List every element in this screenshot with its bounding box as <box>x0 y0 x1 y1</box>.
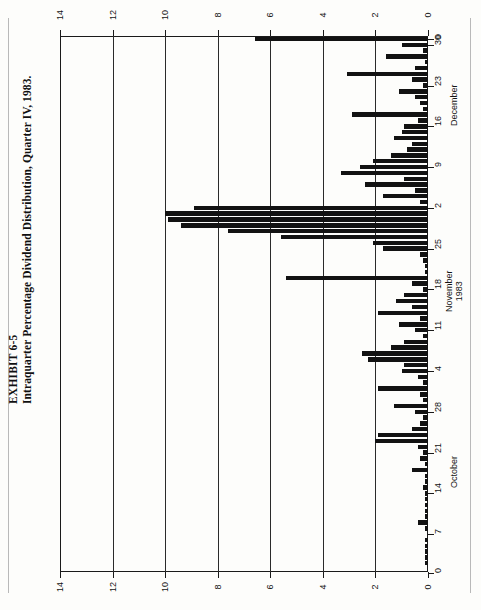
bar <box>373 241 428 245</box>
bar <box>423 258 428 262</box>
bar <box>418 375 429 379</box>
bar <box>362 351 428 355</box>
bar <box>420 316 428 320</box>
bar <box>407 147 428 151</box>
bar <box>425 60 428 64</box>
bar <box>386 54 428 58</box>
value-tick-6 <box>270 572 271 578</box>
bar <box>412 281 428 285</box>
bar <box>404 177 428 181</box>
bar <box>415 66 428 70</box>
bar <box>425 549 428 553</box>
bar <box>420 101 428 105</box>
date-tick-label: 25 <box>433 239 443 249</box>
bar <box>391 345 428 349</box>
bar <box>418 118 429 122</box>
bar <box>255 37 428 41</box>
date-tick-9 <box>428 167 434 168</box>
bar <box>375 439 428 443</box>
bar <box>423 415 428 419</box>
month-label: November1983 <box>444 270 464 312</box>
bar <box>383 194 428 198</box>
bar <box>404 124 428 128</box>
bar <box>394 404 428 408</box>
gridline-6 <box>270 36 271 572</box>
value-tick-label-2: 2 <box>370 576 380 598</box>
bar <box>425 509 428 513</box>
bar <box>423 334 428 338</box>
gridline-12 <box>113 36 114 572</box>
bar <box>415 410 428 414</box>
date-tick-23 <box>428 86 434 87</box>
bar <box>425 538 428 542</box>
gridline-10 <box>165 36 166 572</box>
date-tick-label: 30 <box>433 35 443 45</box>
bar <box>404 340 428 344</box>
date-tick-0 <box>428 39 434 40</box>
date-tick-4 <box>428 371 434 372</box>
bar <box>425 503 428 507</box>
date-tick-30 <box>428 45 434 46</box>
value-tick-label-12: 12 <box>108 4 118 26</box>
bar <box>341 171 428 175</box>
bar <box>347 72 428 76</box>
page-rule-left <box>8 18 9 593</box>
bar <box>423 450 428 454</box>
bar <box>423 48 428 52</box>
bar <box>402 130 428 134</box>
value-tick-label-4: 4 <box>318 576 328 598</box>
bar <box>368 357 428 361</box>
date-tick-label: 16 <box>433 116 443 126</box>
bar <box>352 112 428 116</box>
month-label: December <box>449 85 459 127</box>
bar <box>402 369 428 373</box>
bar <box>404 293 428 297</box>
bar <box>228 229 428 233</box>
bar <box>425 555 428 559</box>
date-tick-28 <box>428 412 434 413</box>
date-tick-label: 0 <box>433 34 443 39</box>
bar <box>420 252 428 256</box>
bar <box>420 392 428 396</box>
value-tick-12 <box>113 572 114 578</box>
bar <box>425 270 428 274</box>
date-tick-21 <box>428 453 434 454</box>
bar <box>425 497 428 501</box>
date-tick-7 <box>428 534 434 535</box>
bar <box>378 311 428 315</box>
bar <box>373 159 428 163</box>
bar <box>425 491 428 495</box>
bar <box>425 479 428 483</box>
value-tick-label-10: 10 <box>160 576 170 598</box>
bar <box>165 211 428 215</box>
date-tick-16 <box>428 126 434 127</box>
bar <box>396 299 428 303</box>
date-tick-label: 4 <box>433 366 443 371</box>
bar-chart <box>60 36 428 572</box>
date-tick-label: 0 <box>433 568 443 573</box>
value-tick-label-8: 8 <box>213 576 223 598</box>
month-label: October <box>449 456 459 488</box>
gridline-4 <box>323 36 324 572</box>
date-tick-label: 7 <box>433 529 443 534</box>
bar <box>420 456 428 460</box>
date-tick-label: 18 <box>433 279 443 289</box>
bar <box>425 462 428 466</box>
date-tick-label: 11 <box>433 321 443 330</box>
value-tick-label-6: 6 <box>265 4 275 26</box>
bar <box>420 421 428 425</box>
bar <box>168 217 428 221</box>
bar <box>402 43 428 47</box>
bar <box>365 182 428 186</box>
date-tick-label: 28 <box>433 402 443 412</box>
value-tick-label-6: 6 <box>265 576 275 598</box>
bar <box>418 520 429 524</box>
bar <box>404 363 428 367</box>
value-tick-14 <box>60 572 61 578</box>
value-tick-label-12: 12 <box>108 576 118 598</box>
bar <box>194 206 428 210</box>
bar <box>415 188 428 192</box>
bar <box>420 200 428 204</box>
bar <box>425 514 428 518</box>
date-tick-label: 9 <box>433 162 443 167</box>
